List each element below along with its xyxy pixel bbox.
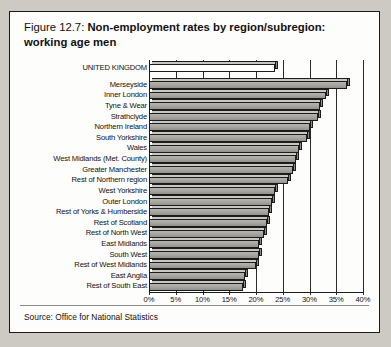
category-label: South West xyxy=(109,251,147,259)
category-label: East Midlands xyxy=(101,240,147,248)
category-label: Strathclyde xyxy=(111,113,147,121)
axis-tick-label: 20% xyxy=(243,295,269,304)
bar-rest-of-south-east[interactable] xyxy=(149,283,247,291)
axis-tick-label: 35% xyxy=(323,295,349,304)
bar-front-face xyxy=(149,64,275,72)
bar-side-face xyxy=(264,227,267,235)
category-label: West Midlands (Met. County) xyxy=(53,155,147,163)
chart-axis-area: 0%5%10%15%20%25%30%35%40% xyxy=(149,60,375,292)
bar-side-face xyxy=(296,152,299,160)
bar-side-face xyxy=(259,248,262,256)
gridline-35% xyxy=(336,60,337,292)
bar-side-face xyxy=(326,89,329,97)
category-label: West Yorkshire xyxy=(99,187,147,195)
category-label: East Anglia xyxy=(111,272,147,280)
y-axis-line xyxy=(149,60,150,293)
category-label: Merseyside xyxy=(110,81,147,89)
category-label: South Yorkshire xyxy=(96,134,147,142)
bar-side-face xyxy=(275,61,278,69)
chart-page: Figure 12.7: Non-employment rates by reg… xyxy=(0,0,391,347)
figure-number: Figure 12.7: xyxy=(24,21,84,33)
category-label: Greater Manchester xyxy=(82,166,147,174)
bar-side-face xyxy=(269,205,272,213)
category-label-column: UNITED KINGDOMMerseysideInner LondonTyne… xyxy=(10,60,149,292)
source-divider xyxy=(20,305,369,306)
category-label: Outer London xyxy=(102,198,147,206)
category-label: Wales xyxy=(127,144,147,152)
axis-tick-label: 0% xyxy=(136,295,162,304)
axis-tick-label: 25% xyxy=(270,295,296,304)
category-label: Rest of Yorks & Humberside xyxy=(56,208,147,216)
bar-side-face xyxy=(267,216,270,224)
bar-side-face xyxy=(256,259,259,267)
axis-tick-label: 40% xyxy=(350,295,376,304)
bar-side-face xyxy=(318,110,321,118)
axis-tick-label: 15% xyxy=(216,295,242,304)
category-label: Rest of West Midlands xyxy=(74,261,147,269)
category-label: Inner London xyxy=(104,91,147,99)
bar-side-face xyxy=(288,174,291,182)
bar-side-face xyxy=(307,131,310,139)
figure-title: Non-employment rates by region/subregion… xyxy=(87,21,325,33)
figure-caption: Figure 12.7: Non-employment rates by reg… xyxy=(24,20,354,50)
source-note: Source: Office for National Statistics xyxy=(24,312,158,322)
axis-tick-label: 5% xyxy=(163,295,189,304)
bar-side-face xyxy=(245,269,248,277)
category-label: Rest of Northern region xyxy=(72,176,147,184)
bar-side-face xyxy=(299,142,302,150)
bar-united-kingdom[interactable] xyxy=(149,64,279,72)
bar-front-face xyxy=(149,283,243,291)
bar-side-face xyxy=(272,195,275,203)
bar-side-face xyxy=(259,237,262,245)
bar-side-face xyxy=(347,78,350,86)
bar-side-face xyxy=(293,163,296,171)
bar-side-face xyxy=(310,120,313,128)
chart-plot-area: UNITED KINGDOMMerseysideInner LondonTyne… xyxy=(10,60,381,310)
bar-side-face xyxy=(320,99,323,107)
axis-tick-label: 30% xyxy=(297,295,323,304)
x-axis-line xyxy=(149,292,364,293)
category-label: Rest of Scotland xyxy=(94,219,147,227)
category-label: Tyne & Wear xyxy=(105,102,147,110)
bar-side-face xyxy=(243,280,246,288)
category-label: Rest of South East xyxy=(86,282,147,290)
axis-tick-label: 10% xyxy=(190,295,216,304)
category-label: Northern Ireland xyxy=(95,123,147,131)
category-label: Rest of North West xyxy=(86,229,147,237)
bar-side-face xyxy=(275,184,278,192)
figure-frame: Figure 12.7: Non-employment rates by reg… xyxy=(9,11,380,333)
figure-title-line2: working age men xyxy=(24,36,116,48)
gridline-40% xyxy=(363,60,364,292)
category-label: UNITED KINGDOM xyxy=(82,64,147,72)
